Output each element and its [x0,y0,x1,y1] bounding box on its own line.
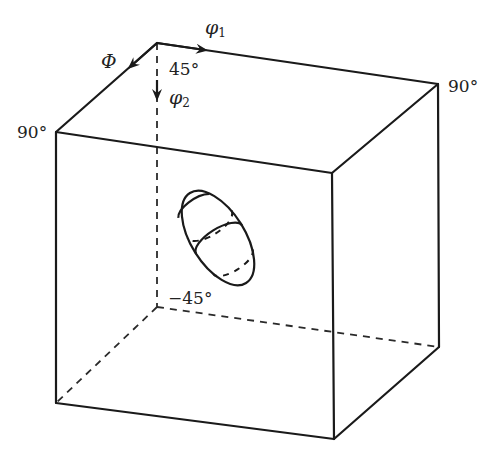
phi2-start-angle-label: 45° [169,61,199,78]
back-bottom-edge [157,307,439,347]
phi2-axis-label: φ2 [169,88,190,109]
back-right-edge [438,84,439,347]
visible-edges [56,43,439,439]
euler-space-diagram: φ1 Φ φ2 45° −45° 90° 90° [0,0,494,457]
front-bottom-edge [56,403,334,439]
Phi-arrow-icon [130,43,157,67]
left-bottom-depth-edge [56,307,157,403]
phi1-axis-label: φ1 [205,18,226,39]
ellipsoid-outline [167,179,269,298]
cube-drawing [0,0,494,457]
hidden-edges [56,43,439,403]
ellipsoid-upper-section-back [187,211,237,248]
front-right-edge [332,173,334,439]
front-top-edge [56,132,332,173]
ellipsoid-top-section [174,191,211,218]
Phi-axis-label: Φ [101,52,117,71]
ellipsoid-mid-section-front [190,216,242,254]
ellipsoid [167,179,269,298]
phi2-end-angle-label: −45° [168,290,212,307]
bottom-right-depth-edge [334,347,439,439]
Phi-max-angle-label: 90° [17,124,47,141]
phi1-max-angle-label: 90° [448,78,478,95]
phi1-arrow-icon [157,43,205,50]
top-right-depth-edge [332,84,438,173]
